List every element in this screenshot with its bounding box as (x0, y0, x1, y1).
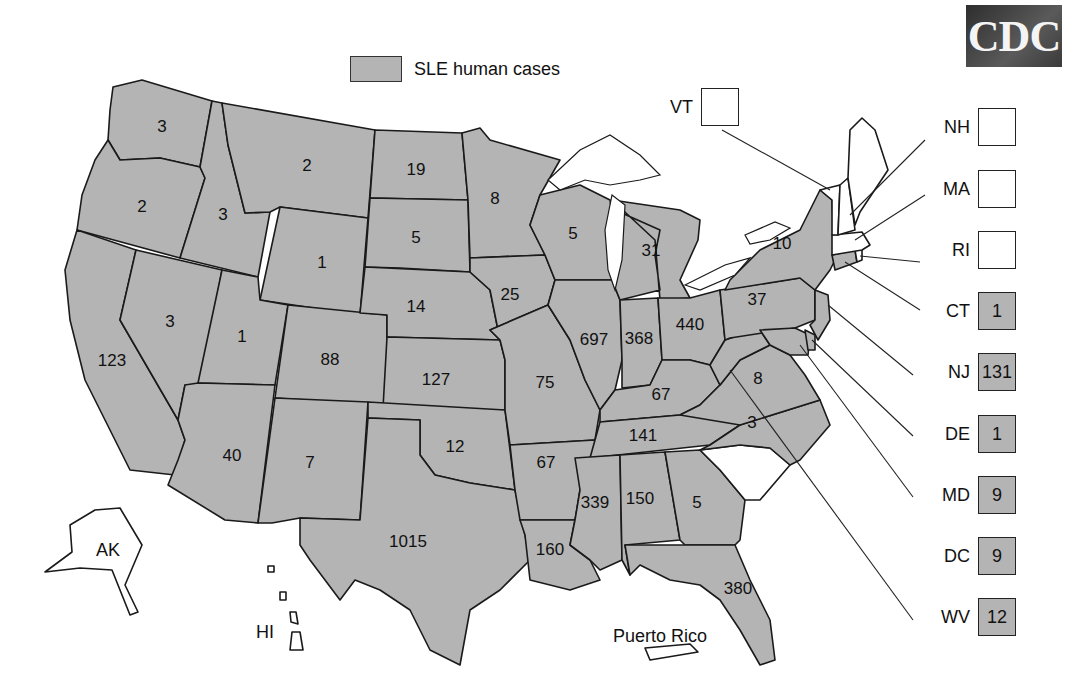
value-ne: 14 (407, 297, 426, 316)
callout-value: 9 (978, 537, 1016, 575)
us-map: 3 2 123 3 3 2 1 1 40 88 7 19 5 14 127 12… (0, 0, 1073, 675)
leader-ct (845, 262, 920, 310)
callout-value: 9 (978, 476, 1016, 514)
value-mt: 2 (302, 156, 311, 175)
value-ny: 10 (773, 234, 792, 253)
callout-value: 1 (978, 292, 1016, 330)
callout-value (978, 170, 1016, 208)
value-nv: 3 (165, 312, 174, 331)
value-ms: 339 (581, 493, 609, 512)
value-az: 40 (223, 446, 242, 465)
callout-abbr: DE (930, 424, 970, 445)
value-mo: 75 (536, 373, 555, 392)
callout-nj: NJ 131 (930, 353, 1016, 391)
value-wy: 1 (317, 253, 326, 272)
value-ca: 123 (98, 351, 126, 370)
value-pa: 37 (748, 290, 767, 309)
callout-abbr: WV (930, 607, 970, 628)
callout-value (978, 231, 1016, 269)
label-pr: Puerto Rico (613, 626, 707, 647)
callout-value (978, 108, 1016, 146)
value-tx: 1015 (389, 532, 427, 551)
legend-label: SLE human cases (414, 59, 560, 80)
leader-vt (722, 130, 830, 190)
value-mn: 8 (490, 189, 499, 208)
value-al: 150 (626, 489, 654, 508)
label-ak: AK (96, 540, 120, 561)
value-sd: 5 (411, 228, 420, 247)
callout-de: DE 1 (930, 415, 1016, 453)
callout-wv: WV 12 (930, 598, 1016, 636)
callout-value (701, 88, 739, 126)
value-wi: 5 (568, 224, 577, 243)
value-ga: 5 (692, 493, 701, 512)
state-ak (45, 508, 142, 615)
value-nd: 19 (407, 160, 426, 179)
callout-abbr: RI (930, 240, 970, 261)
label-hi: HI (256, 622, 274, 643)
value-ia: 25 (501, 285, 520, 304)
value-il: 697 (580, 330, 608, 349)
callout-ct: CT 1 (930, 292, 1016, 330)
value-nc: 3 (747, 413, 756, 432)
value-ks: 127 (422, 370, 450, 389)
state-wy[interactable] (260, 207, 368, 315)
callout-nh: NH (930, 108, 1016, 146)
legend-swatch (350, 56, 402, 82)
callout-ma: MA (930, 170, 1016, 208)
value-la: 160 (536, 540, 564, 559)
value-ut: 1 (237, 327, 246, 346)
value-or: 2 (137, 197, 146, 216)
leader-nj (828, 305, 913, 375)
value-ky: 67 (652, 385, 671, 404)
callout-abbr: CT (930, 301, 970, 322)
value-ok: 12 (446, 437, 465, 456)
value-mi: 31 (642, 241, 661, 260)
callout-abbr: MD (930, 485, 970, 506)
value-in: 368 (625, 329, 653, 348)
callout-value: 1 (978, 415, 1016, 453)
value-wa: 3 (157, 117, 166, 136)
value-fl: 380 (724, 579, 752, 598)
callout-abbr: NJ (930, 362, 970, 383)
cdc-logo-text: CDC (968, 11, 1060, 62)
callout-abbr: VT (653, 97, 693, 118)
callout-abbr: NH (930, 117, 970, 138)
value-id: 3 (218, 205, 227, 224)
value-nm: 7 (305, 453, 314, 472)
state-me[interactable] (848, 118, 888, 225)
value-va: 8 (753, 369, 762, 388)
callout-abbr: DC (930, 546, 970, 567)
cdc-logo: CDC (966, 5, 1062, 67)
callout-value: 12 (978, 598, 1016, 636)
value-ar: 67 (537, 453, 556, 472)
callout-vt: VT (653, 88, 739, 126)
state-mt[interactable] (222, 103, 375, 218)
lake-superior (548, 135, 660, 190)
value-co: 88 (321, 350, 340, 369)
callout-ri: RI (930, 231, 1016, 269)
legend: SLE human cases (350, 56, 560, 82)
leader-ri (860, 256, 920, 262)
callout-value: 131 (978, 353, 1016, 391)
callout-dc: DC 9 (930, 537, 1016, 575)
value-oh: 440 (676, 315, 704, 334)
callout-abbr: MA (930, 179, 970, 200)
callout-md: MD 9 (930, 476, 1016, 514)
state-az[interactable] (168, 383, 275, 523)
value-tn: 141 (629, 426, 657, 445)
